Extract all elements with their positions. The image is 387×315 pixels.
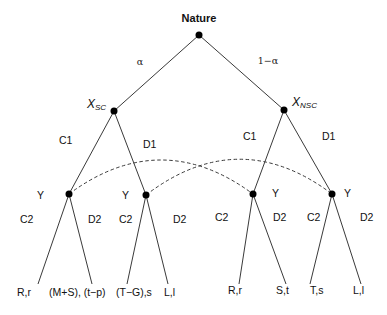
edge-xnsc-c1 [253, 110, 284, 194]
move-c2-2: C2 [119, 213, 133, 225]
move-d1-right: D1 [322, 130, 336, 142]
node-y-1 [66, 191, 73, 198]
edge-xnsc-d1 [284, 110, 332, 194]
edge-y2-d2 [146, 195, 168, 284]
node-nature [196, 32, 203, 39]
edge-y4-d2 [332, 194, 361, 284]
information-set-c1 [69, 160, 253, 194]
information-set-d1 [146, 159, 332, 195]
node-y-2 [143, 192, 150, 199]
edge-y2-c2 [127, 195, 146, 284]
nature-label: Nature [182, 12, 217, 24]
payoff-1: R,r [17, 286, 32, 298]
edge-y4-c2 [310, 194, 332, 284]
payoff-2: (M+S), (t−p) [49, 286, 106, 298]
prob-alpha-label: α [137, 56, 144, 67]
move-d2-3: D2 [273, 211, 287, 223]
edge-y3-d2 [253, 194, 286, 284]
player-y-label-2: Y [122, 189, 129, 201]
edge-xsc-d1 [114, 111, 146, 195]
node-x-nsc [281, 107, 288, 114]
player-x-nsc-label: XNSC [291, 95, 317, 110]
node-x-sc [111, 108, 118, 115]
prob-one-minus-alpha-label: 1−α [258, 55, 279, 66]
move-c1-right: C1 [243, 130, 257, 142]
payoff-3: (T−G),s [116, 286, 152, 298]
player-y-label-3: Y [272, 187, 279, 199]
node-y-4 [329, 191, 336, 198]
payoff-4: L,l [164, 286, 175, 298]
move-c1-left: C1 [59, 134, 73, 146]
move-c2-4: C2 [307, 211, 321, 223]
edge-y1-c2 [38, 194, 69, 284]
edge-y1-d2 [69, 194, 92, 284]
move-d2-4: D2 [360, 211, 374, 223]
move-c2-1: C2 [20, 213, 34, 225]
player-y-label-4: Y [344, 187, 351, 199]
edge-nature-to-xnsc [199, 35, 284, 110]
player-x-sc-label: XSC [86, 97, 106, 112]
payoff-6: S,t [276, 284, 289, 296]
move-d1-left: D1 [143, 138, 157, 150]
move-d2-1: D2 [88, 213, 102, 225]
move-d2-2: D2 [173, 213, 187, 225]
player-y-label-1: Y [37, 189, 44, 201]
game-tree-diagram: Nature α 1−α XSC XNSC C1 D1 C1 D1 Y Y Y … [0, 0, 387, 315]
move-c2-3: C2 [215, 211, 229, 223]
edge-y3-c2 [239, 194, 253, 284]
edge-nature-to-xsc [114, 35, 199, 111]
payoff-5: R,r [228, 284, 243, 296]
edge-xsc-c1 [69, 111, 114, 194]
payoff-7: T,s [310, 284, 323, 296]
payoff-8: L,l [353, 284, 364, 296]
node-y-3 [250, 191, 257, 198]
